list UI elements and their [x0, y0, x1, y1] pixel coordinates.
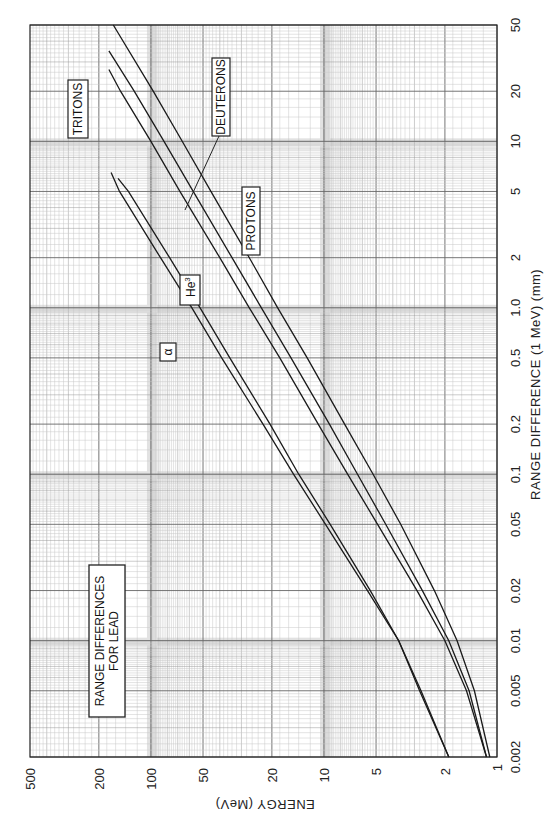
range-axis-ticks: 0.0020.0050.010.020.050.10.20.51.0251020…: [508, 18, 523, 774]
range-tick-label: 0.5: [508, 349, 523, 367]
energy-axis-title: ENERGY (MeV): [215, 797, 315, 812]
label-tritons-text: TRITONS: [71, 83, 85, 135]
range-tick-label: 0.02: [508, 578, 523, 603]
energy-tick-label: 50: [196, 768, 211, 782]
range-tick-label: 1.0: [508, 299, 523, 317]
curve-deuterons: [109, 51, 487, 757]
range-tick-label: 0.05: [508, 512, 523, 537]
deuterons-leader-line: [185, 136, 219, 210]
label-he3: He3: [180, 275, 200, 305]
label-protons: PROTONS: [242, 187, 260, 255]
label-deuterons-text: DEUTERONS: [214, 59, 228, 134]
label-alpha: α: [160, 343, 176, 361]
label-alpha-text: α: [161, 348, 175, 355]
range-tick-label: 10: [508, 134, 523, 148]
range-energy-chart: 125102050100200500 0.0020.0050.010.020.0…: [0, 0, 555, 826]
energy-tick-label: 1: [490, 764, 505, 771]
energy-tick-label: 2: [438, 768, 453, 775]
range-tick-label: 0.005: [508, 674, 523, 707]
range-tick-label: 5: [508, 188, 523, 195]
label-tritons: TRITONS: [68, 80, 88, 138]
energy-axis-ticks: 125102050100200500: [23, 764, 505, 790]
energy-tick-label: 100: [144, 768, 159, 790]
range-tick-label: 0.2: [508, 415, 523, 433]
chart-title-line2: FOR LEAD: [107, 611, 121, 671]
energy-tick-label: 500: [23, 768, 38, 790]
energy-tick-label: 10: [317, 768, 332, 782]
label-deuterons: DEUTERONS: [212, 58, 230, 136]
range-tick-label: 0.1: [508, 465, 523, 483]
range-tick-label: 0.01: [508, 628, 523, 653]
curve-tritons: [109, 70, 487, 758]
chart-title-line1: RANGE DIFFERENCES: [93, 576, 107, 707]
energy-tick-label: 200: [92, 768, 107, 790]
energy-tick-label: 5: [369, 768, 384, 775]
chart-title-box: RANGE DIFFERENCES FOR LEAD: [89, 565, 125, 717]
energy-tick-label: 20: [265, 768, 280, 782]
label-protons-text: PROTONS: [244, 191, 258, 250]
range-tick-label: 0.002: [508, 741, 523, 774]
range-tick-label: 2: [508, 254, 523, 261]
range-axis-title: RANGE DIFFERENCE (1 MeV) (mm): [528, 269, 543, 500]
range-tick-label: 20: [508, 84, 523, 98]
range-tick-label: 50: [508, 18, 523, 32]
